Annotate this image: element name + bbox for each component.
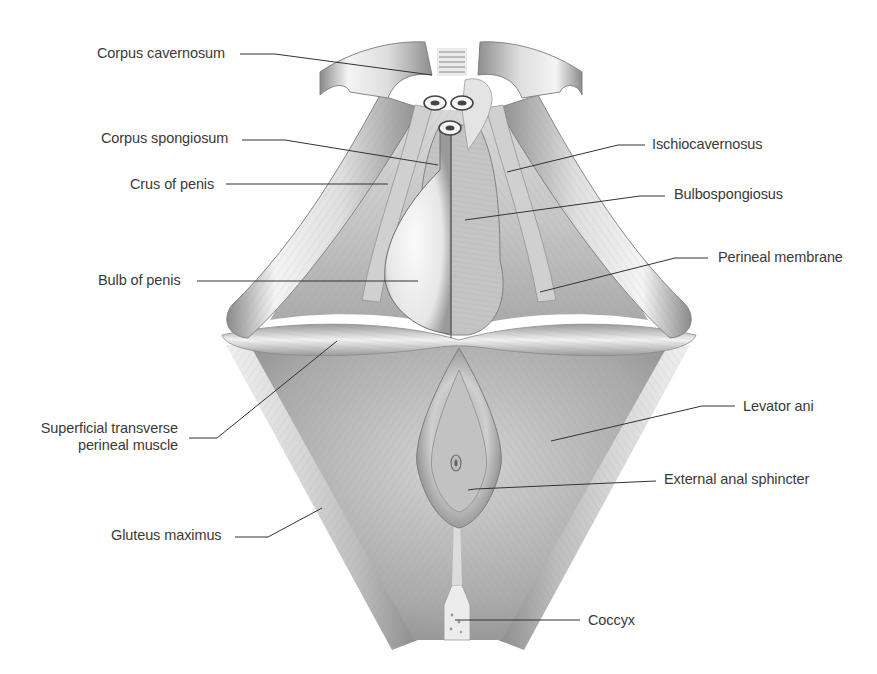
label-crus-of-penis: Crus of penis xyxy=(130,176,214,193)
label-levator-ani: Levator ani xyxy=(743,398,814,415)
label-bulbospongiosus: Bulbospongiosus xyxy=(674,186,783,203)
label-ischiocavernosus: Ischiocavernosus xyxy=(652,136,762,153)
label-corpus-spongiosum: Corpus spongiosum xyxy=(101,130,228,147)
corpus-spongiosum-section xyxy=(439,121,461,135)
label-coccyx: Coccyx xyxy=(588,612,635,629)
label-superficial-transverse-perineal-muscle: Superficial transverse perineal muscle xyxy=(36,420,178,454)
label-corpus-cavernosum: Corpus cavernosum xyxy=(97,45,225,62)
label-gluteus-maximus: Gluteus maximus xyxy=(111,527,222,544)
label-line-1: Superficial transverse xyxy=(36,420,178,437)
pubic-arch-right xyxy=(478,42,582,98)
label-external-anal-sphincter: External anal sphincter xyxy=(664,471,809,488)
perineum-illustration xyxy=(0,0,877,674)
label-perineal-membrane: Perineal membrane xyxy=(718,249,843,266)
anatomy-figure: Corpus cavernosum Corpus spongiosum Crus… xyxy=(0,0,877,674)
label-bulb-of-penis: Bulb of penis xyxy=(98,272,181,289)
corpus-cavernosum-sections xyxy=(424,96,473,110)
leader-line-gluteus-maximus xyxy=(235,508,322,537)
label-line-2: perineal muscle xyxy=(36,437,178,454)
pubic-symphysis xyxy=(437,48,467,76)
pubic-arch-left xyxy=(320,42,432,98)
